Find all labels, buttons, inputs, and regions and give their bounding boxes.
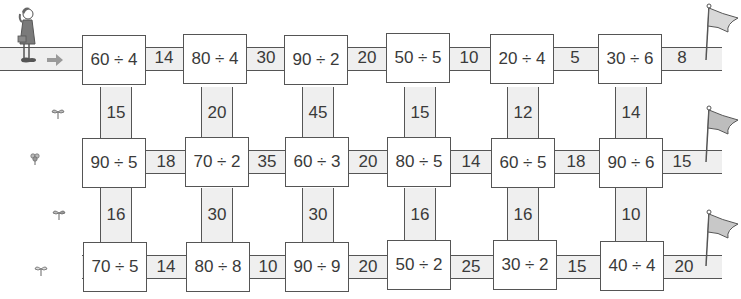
vertical-path-2-2[interactable]: 30: [201, 188, 233, 242]
division-expression: 70 ÷ 2: [193, 152, 240, 172]
horizontal-answer[interactable]: 30: [248, 47, 284, 69]
horizontal-answer[interactable]: 20: [666, 256, 702, 278]
horizontal-answer[interactable]: 10: [451, 47, 487, 69]
vertical-answer: 30: [208, 205, 227, 225]
division-box[interactable]: 30 ÷ 6: [598, 34, 662, 84]
division-box[interactable]: 80 ÷ 8: [186, 242, 250, 292]
vertical-answer: 16: [411, 205, 430, 225]
division-expression: 20 ÷ 4: [498, 49, 545, 69]
division-expression: 50 ÷ 2: [395, 255, 442, 275]
horizontal-answer[interactable]: 18: [148, 151, 184, 173]
vertical-path-1-2[interactable]: 20: [201, 87, 233, 138]
horizontal-answer[interactable]: 35: [249, 151, 285, 173]
horizontal-answer[interactable]: 18: [558, 151, 594, 173]
horizontal-answer[interactable]: 20: [350, 256, 386, 278]
vertical-answer: 45: [309, 103, 328, 123]
division-expression: 80 ÷ 5: [395, 152, 442, 172]
horizontal-answer[interactable]: 14: [453, 151, 489, 173]
division-expression: 90 ÷ 5: [90, 153, 137, 173]
vertical-answer: 16: [514, 205, 533, 225]
vertical-answer: 15: [107, 103, 126, 123]
vertical-answer: 20: [208, 103, 227, 123]
division-expression: 30 ÷ 6: [606, 49, 653, 69]
division-box[interactable]: 60 ÷ 5: [491, 138, 555, 188]
division-box[interactable]: 80 ÷ 4: [183, 34, 247, 84]
division-expression: 60 ÷ 3: [293, 152, 340, 172]
vertical-answer: 10: [622, 205, 641, 225]
girl-icon: [12, 2, 42, 68]
horizontal-answer[interactable]: 14: [148, 256, 184, 278]
flag-icon: [702, 104, 741, 164]
arrow-right-icon: [47, 54, 63, 66]
division-box[interactable]: 50 ÷ 5: [386, 33, 450, 83]
division-expression: 60 ÷ 4: [90, 50, 137, 70]
vertical-path-2-3[interactable]: 30: [302, 188, 334, 242]
horizontal-answer[interactable]: 14: [146, 47, 182, 69]
horizontal-answer[interactable]: 15: [559, 256, 595, 278]
flag-icon: [702, 2, 741, 62]
vertical-path-1-6[interactable]: 14: [615, 87, 647, 138]
horizontal-answer[interactable]: 10: [250, 256, 286, 278]
horizontal-answer[interactable]: 5: [557, 47, 593, 69]
vertical-path-1-3[interactable]: 45: [302, 87, 334, 138]
division-box[interactable]: 60 ÷ 3: [285, 137, 349, 187]
horizontal-answer[interactable]: 15: [664, 151, 700, 173]
division-box[interactable]: 90 ÷ 9: [285, 242, 349, 292]
vertical-answer: 30: [309, 205, 328, 225]
horizontal-answer[interactable]: 25: [453, 256, 489, 278]
division-box[interactable]: 30 ÷ 2: [493, 240, 557, 290]
division-expression: 90 ÷ 2: [292, 50, 339, 70]
division-box[interactable]: 70 ÷ 5: [83, 242, 147, 292]
division-expression: 80 ÷ 4: [191, 49, 238, 69]
division-box[interactable]: 90 ÷ 2: [284, 35, 348, 85]
division-box[interactable]: 80 ÷ 5: [387, 137, 451, 187]
vertical-answer: 15: [411, 103, 430, 123]
division-box[interactable]: 40 ÷ 4: [600, 241, 664, 291]
horizontal-answer[interactable]: 20: [350, 151, 386, 173]
horizontal-answer[interactable]: 20: [349, 47, 385, 69]
division-box[interactable]: 70 ÷ 2: [185, 137, 249, 187]
division-box[interactable]: 50 ÷ 2: [387, 240, 451, 290]
division-box[interactable]: 90 ÷ 5: [82, 138, 146, 188]
vertical-path-1-5[interactable]: 12: [507, 87, 539, 138]
sprout-icon: [34, 263, 48, 277]
vertical-path-2-6[interactable]: 10: [615, 188, 647, 242]
division-expression: 40 ÷ 4: [608, 256, 655, 276]
division-expression: 90 ÷ 9: [293, 257, 340, 277]
horizontal-answer[interactable]: 8: [664, 47, 700, 69]
sprout-icon: [52, 207, 66, 221]
vertical-answer: 16: [107, 205, 126, 225]
division-box[interactable]: 90 ÷ 6: [599, 138, 663, 188]
sprout-icon: [51, 106, 65, 120]
flag-icon: [702, 208, 741, 268]
division-expression: 70 ÷ 5: [91, 257, 138, 277]
division-expression: 60 ÷ 5: [499, 153, 546, 173]
vertical-path-1-4[interactable]: 15: [404, 87, 436, 138]
division-expression: 90 ÷ 6: [607, 153, 654, 173]
division-box[interactable]: 60 ÷ 4: [82, 35, 146, 85]
vertical-answer: 12: [514, 103, 533, 123]
vertical-path-2-4[interactable]: 16: [404, 188, 436, 242]
division-box[interactable]: 20 ÷ 4: [490, 34, 554, 84]
division-expression: 80 ÷ 8: [194, 257, 241, 277]
vertical-path-1-1[interactable]: 15: [100, 87, 132, 138]
division-expression: 30 ÷ 2: [501, 255, 548, 275]
vertical-path-2-1[interactable]: 16: [100, 188, 132, 242]
vertical-answer: 14: [622, 103, 641, 123]
vertical-path-2-5[interactable]: 16: [507, 188, 539, 242]
flower-icon: [28, 152, 42, 166]
division-expression: 50 ÷ 5: [394, 48, 441, 68]
